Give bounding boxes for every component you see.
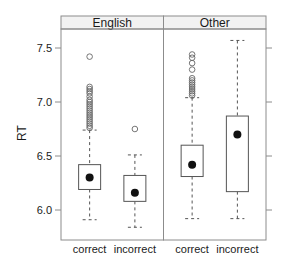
- y-tick-label: 7.0: [37, 96, 52, 108]
- x-tick-label: incorrect: [114, 243, 156, 255]
- box-other-correct: [181, 52, 203, 219]
- y-tick-label: 6.0: [37, 204, 52, 216]
- panel-english: [61, 29, 164, 240]
- box-english-correct: [79, 54, 101, 220]
- panel-other: [164, 29, 267, 240]
- y-axis-label: RT: [15, 125, 29, 141]
- boxplot-chart: EnglishOther correctincorrectcorrectinco…: [0, 0, 286, 266]
- strip-label: English: [93, 16, 132, 30]
- x-tick-label: correct: [175, 243, 209, 255]
- outlier-point: [132, 126, 138, 132]
- strip-label: Other: [200, 16, 230, 30]
- y-tick-label: 6.5: [37, 150, 52, 162]
- iqr-box: [226, 116, 248, 192]
- outlier-point: [87, 54, 93, 60]
- box-other-incorrect: [226, 40, 248, 218]
- median-dot: [188, 161, 196, 169]
- box-english-incorrect: [124, 126, 146, 227]
- outlier-point: [189, 60, 195, 66]
- median-dot: [86, 174, 94, 182]
- x-tick-label: incorrect: [216, 243, 258, 255]
- y-tick-label: 7.5: [37, 42, 52, 54]
- outlier-point: [189, 67, 195, 73]
- median-dot: [233, 130, 241, 138]
- x-tick-label: correct: [73, 243, 107, 255]
- median-dot: [131, 189, 139, 197]
- iqr-box: [124, 175, 146, 201]
